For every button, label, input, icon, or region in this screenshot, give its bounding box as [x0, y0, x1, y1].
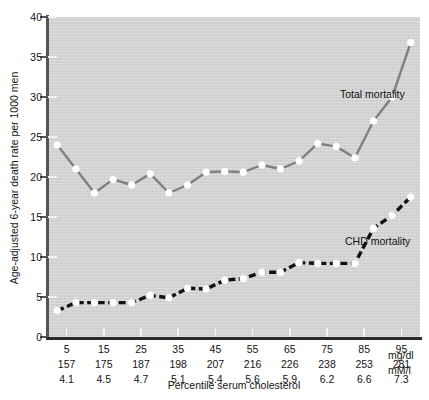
data-point — [314, 140, 321, 147]
series-label-total-mortality: Total mortality — [340, 88, 405, 100]
data-point — [128, 299, 135, 306]
data-point — [296, 259, 303, 266]
data-point — [147, 292, 154, 299]
data-point — [184, 285, 191, 292]
data-point — [407, 39, 414, 46]
data-point — [370, 225, 377, 232]
data-point — [203, 169, 210, 176]
data-point — [110, 176, 117, 183]
data-point — [221, 277, 228, 284]
data-point — [110, 299, 117, 306]
data-point — [258, 162, 265, 169]
data-point — [147, 170, 154, 177]
data-point — [277, 269, 284, 276]
data-point — [184, 182, 191, 189]
data-point — [240, 169, 247, 176]
data-point — [258, 269, 265, 276]
data-point — [91, 190, 98, 197]
series-label-chd-mortality: CHD mortality — [345, 235, 410, 247]
data-point — [54, 307, 61, 314]
data-point — [165, 294, 172, 301]
data-point — [91, 299, 98, 306]
series-total-mortality — [54, 39, 414, 196]
data-point — [203, 286, 210, 293]
data-point — [221, 168, 228, 175]
data-point — [370, 118, 377, 125]
data-point — [165, 190, 172, 197]
data-point — [314, 260, 321, 267]
data-point — [351, 154, 358, 161]
data-point — [128, 182, 135, 189]
series-layer — [0, 0, 429, 400]
data-point — [54, 142, 61, 149]
series-chd-mortality — [54, 194, 414, 315]
data-point — [240, 275, 247, 282]
data-point — [277, 166, 284, 173]
data-point — [389, 212, 396, 219]
series-line-total-mortality — [57, 43, 410, 193]
data-point — [351, 260, 358, 267]
data-point — [72, 166, 79, 173]
data-point — [333, 260, 340, 267]
series-line-chd-mortality — [57, 197, 410, 311]
chart-figure: 0510152025303540 Age-adjusted 6-year dea… — [0, 0, 429, 400]
data-point — [72, 299, 79, 306]
data-point — [296, 158, 303, 165]
data-point — [333, 143, 340, 150]
data-point — [407, 194, 414, 201]
